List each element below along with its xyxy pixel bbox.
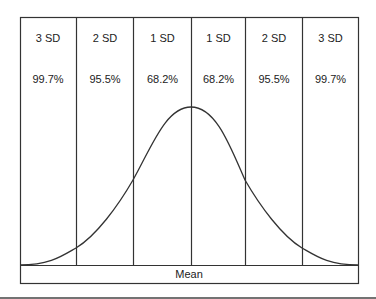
column-label-pct: 95.5% — [246, 73, 302, 85]
column-label-sd: 1 SD — [192, 32, 245, 44]
normal-distribution-diagram — [0, 0, 376, 299]
column-label-sd: 1 SD — [134, 32, 191, 44]
column-label-sd: 2 SD — [77, 32, 133, 44]
column-label-pct: 99.7% — [20, 73, 76, 85]
diagram-frame — [21, 18, 359, 284]
bell-curve — [20, 107, 358, 265]
mean-label: Mean — [20, 268, 358, 280]
column-label-sd: 2 SD — [246, 32, 302, 44]
column-label-pct: 68.2% — [192, 73, 245, 85]
column-label-sd: 3 SD — [303, 32, 358, 44]
column-label-pct: 68.2% — [134, 73, 191, 85]
column-label-pct: 95.5% — [77, 73, 133, 85]
column-label-pct: 99.7% — [303, 73, 358, 85]
column-label-sd: 3 SD — [20, 32, 76, 44]
